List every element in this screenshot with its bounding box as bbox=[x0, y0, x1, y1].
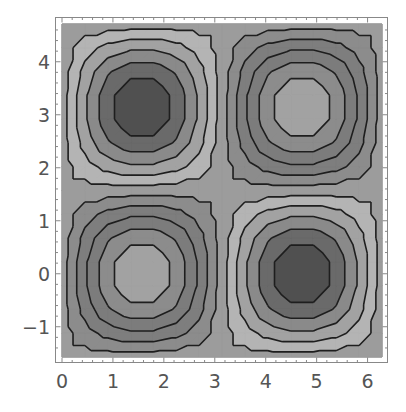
x-tick-label: 4 bbox=[260, 370, 272, 392]
x-axis-tick-labels: 0123456 bbox=[56, 370, 374, 392]
contour-plot: 0123456 −101234 bbox=[0, 0, 406, 412]
y-tick-label: 4 bbox=[38, 51, 50, 73]
x-tick-label: 5 bbox=[311, 370, 323, 392]
y-tick-label: 3 bbox=[38, 104, 50, 126]
x-tick-label: 3 bbox=[209, 370, 221, 392]
y-tick-label: 2 bbox=[38, 157, 50, 179]
x-tick-label: 2 bbox=[158, 370, 170, 392]
y-tick-label: −1 bbox=[22, 316, 50, 338]
x-tick-label: 6 bbox=[362, 370, 374, 392]
y-tick-label: 0 bbox=[38, 263, 50, 285]
y-tick-label: 1 bbox=[38, 210, 50, 232]
y-axis-tick-labels: −101234 bbox=[22, 51, 50, 338]
x-tick-label: 0 bbox=[56, 370, 68, 392]
x-tick-label: 1 bbox=[107, 370, 119, 392]
